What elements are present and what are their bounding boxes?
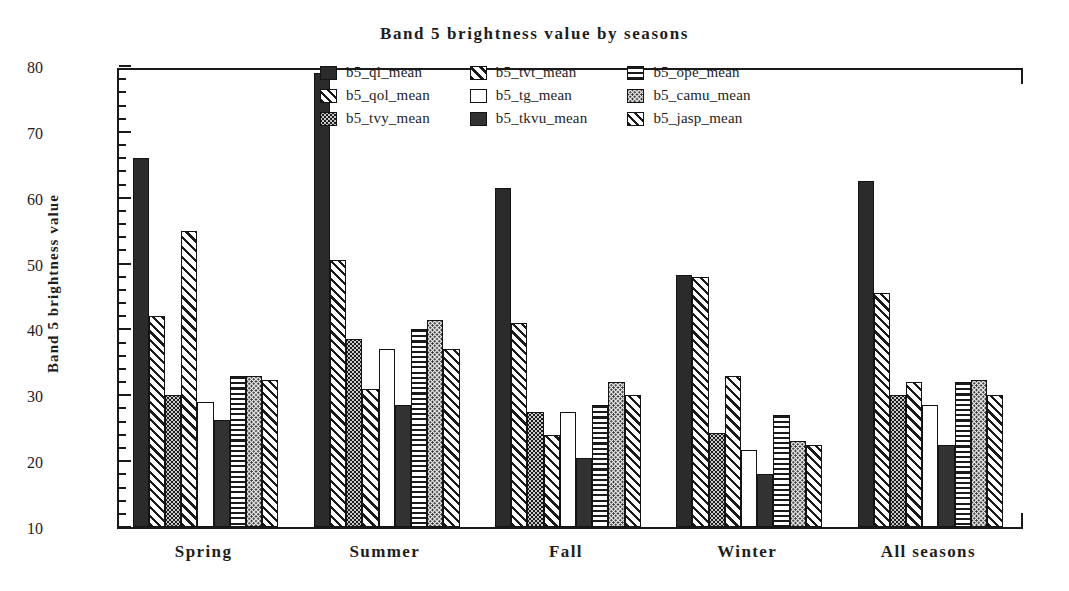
y-tick-minor	[119, 223, 126, 225]
legend-label: b5_tvt_mean	[496, 64, 577, 81]
y-tick-minor	[119, 447, 126, 449]
legend-swatch-icon	[320, 112, 337, 126]
y-tick-major	[119, 328, 131, 330]
x-tick-label: All seasons	[818, 542, 1038, 562]
bar-b5_tvt_mean	[181, 231, 197, 527]
y-tick-minor	[119, 144, 126, 146]
y-tick-minor	[119, 434, 126, 436]
bar-group	[314, 70, 460, 527]
y-tick-label: 10	[0, 521, 43, 537]
bar-b5_camu_mean	[608, 382, 624, 527]
legend-item[interactable]: b5_tkvu_mean	[470, 110, 588, 127]
bar-b5_tkvu_mean	[938, 445, 954, 527]
legend-item[interactable]: b5_tg_mean	[470, 87, 588, 104]
y-tick-major	[119, 131, 131, 133]
bar-b5_jasp_mean	[806, 445, 822, 527]
y-tick-minor	[119, 315, 126, 317]
y-tick-label: 60	[0, 192, 43, 208]
y-tick-minor	[119, 368, 126, 370]
bar-b5_tvy_mean	[890, 395, 906, 527]
legend-item[interactable]: b5_qol_mean	[320, 87, 430, 104]
legend-item[interactable]: b5_ope_mean	[627, 64, 750, 81]
bar-b5_ql_mean	[858, 181, 874, 527]
chart-figure: Band 5 brightness value by seasons Band …	[0, 0, 1069, 591]
plot-area	[117, 68, 1023, 529]
bar-b5_qol_mean	[330, 260, 346, 527]
legend-swatch-icon	[627, 112, 644, 126]
bar-b5_qol_mean	[692, 277, 708, 527]
bar-b5_camu_mean	[790, 441, 806, 527]
y-tick-major	[119, 197, 131, 199]
axis-right-cap-top	[1021, 70, 1023, 84]
y-tick-label: 20	[0, 455, 43, 471]
y-tick-minor	[119, 91, 126, 93]
y-tick-minor	[119, 407, 126, 409]
bar-b5_qol_mean	[511, 323, 527, 527]
bar-b5_ope_mean	[955, 382, 971, 527]
y-tick-major	[119, 460, 131, 462]
legend-item[interactable]: b5_tvt_mean	[470, 64, 588, 81]
bar-b5_tvt_mean	[725, 376, 741, 527]
y-tick-label: 80	[0, 60, 43, 76]
y-tick-minor	[119, 157, 126, 159]
bar-b5_tg_mean	[379, 349, 395, 527]
legend-swatch-icon	[470, 66, 487, 80]
legend-label: b5_qol_mean	[346, 87, 430, 104]
y-tick-minor	[119, 302, 126, 304]
bar-b5_ql_mean	[495, 188, 511, 527]
bar-group	[133, 70, 279, 527]
legend-label: b5_jasp_mean	[653, 110, 742, 127]
chart-legend: b5_ql_meanb5_tvt_meanb5_ope_meanb5_qol_m…	[320, 64, 751, 127]
legend-item[interactable]: b5_jasp_mean	[627, 110, 750, 127]
legend-label: b5_tvy_mean	[346, 110, 430, 127]
bar-b5_ql_mean	[133, 158, 149, 527]
bar-b5_tvy_mean	[709, 433, 725, 527]
bar-b5_tg_mean	[741, 450, 757, 527]
y-tick-minor	[119, 500, 126, 502]
y-tick-major	[119, 65, 131, 67]
y-tick-label: 70	[0, 126, 43, 142]
y-tick-major	[119, 526, 131, 528]
bar-b5_tkvu_mean	[757, 474, 773, 527]
bar-b5_ope_mean	[592, 405, 608, 527]
legend-swatch-icon	[470, 112, 487, 126]
y-tick-label: 50	[0, 258, 43, 274]
bar-b5_tkvu_mean	[395, 405, 411, 527]
legend-swatch-icon	[627, 66, 644, 80]
bar-b5_ope_mean	[411, 329, 427, 527]
y-tick-minor	[119, 78, 126, 80]
legend-swatch-icon	[627, 89, 644, 103]
y-tick-minor	[119, 118, 126, 120]
y-tick-minor	[119, 421, 126, 423]
y-tick-minor	[119, 342, 126, 344]
y-tick-minor	[119, 184, 126, 186]
bar-b5_tvy_mean	[165, 395, 181, 527]
y-tick-minor	[119, 249, 126, 251]
bar-group	[858, 70, 1004, 527]
legend-item[interactable]: b5_ql_mean	[320, 64, 430, 81]
bar-b5_jasp_mean	[987, 395, 1003, 527]
y-tick-minor	[119, 355, 126, 357]
bar-b5_tvy_mean	[346, 339, 362, 527]
bar-b5_tkvu_mean	[576, 458, 592, 527]
legend-item[interactable]: b5_camu_mean	[627, 87, 750, 104]
y-tick-minor	[119, 105, 126, 107]
legend-label: b5_ql_mean	[346, 64, 422, 81]
legend-label: b5_camu_mean	[653, 87, 750, 104]
y-tick-minor	[119, 170, 126, 172]
y-axis-label: Band 5 brightness value	[45, 154, 62, 414]
legend-swatch-icon	[320, 66, 337, 80]
bar-b5_camu_mean	[971, 380, 987, 527]
bar-b5_tg_mean	[922, 405, 938, 527]
axis-right-cap-bottom	[1021, 513, 1023, 527]
bar-b5_jasp_mean	[625, 395, 641, 527]
bar-b5_ql_mean	[314, 73, 330, 527]
bar-b5_qol_mean	[149, 316, 165, 527]
legend-label: b5_tg_mean	[496, 87, 572, 104]
bar-b5_tvt_mean	[544, 435, 560, 527]
chart-title: Band 5 brightness value by seasons	[0, 24, 1069, 44]
bar-b5_tkvu_mean	[214, 420, 230, 527]
legend-item[interactable]: b5_tvy_mean	[320, 110, 430, 127]
legend-swatch-icon	[470, 89, 487, 103]
y-tick-label: 30	[0, 389, 43, 405]
